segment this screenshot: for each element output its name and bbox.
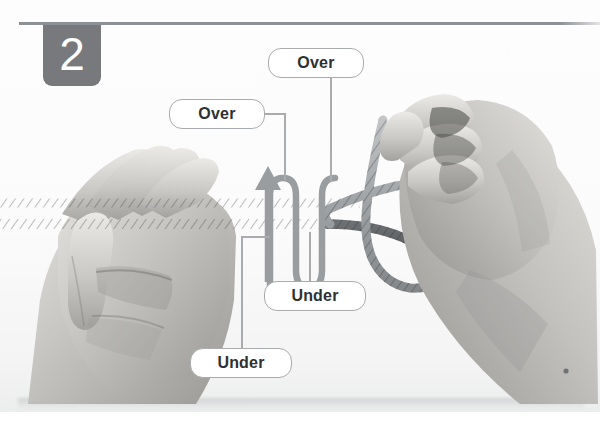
illustration-canvas: 2 Over Over Under Under: [0, 0, 600, 435]
serpentine-weave-path: [270, 178, 335, 288]
callout-over-top-label: Over: [297, 54, 334, 72]
callout-over-top: Over: [268, 48, 364, 78]
callout-under-low-label: Under: [217, 354, 264, 372]
callout-over-left-label: Over: [198, 105, 235, 123]
callout-over-left: Over: [169, 99, 265, 129]
leader-over-left-vertical: [284, 113, 286, 180]
callout-under-mid: Under: [264, 281, 366, 311]
callout-under-mid-label: Under: [291, 287, 338, 305]
leader-over-top: [330, 78, 332, 182]
leader-over-left-horizontal: [265, 113, 286, 115]
leader-under-low-vertical: [241, 236, 243, 348]
leader-under-mid: [309, 232, 311, 281]
leader-under-low-horizontal: [241, 236, 270, 238]
callout-under-low: Under: [190, 348, 292, 378]
